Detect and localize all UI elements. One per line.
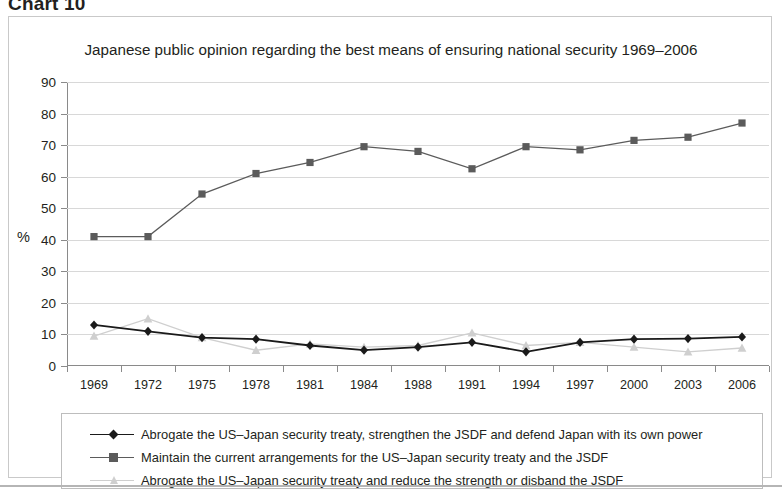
x-axis-tick-label: 1981	[296, 378, 324, 392]
diamond-marker	[109, 429, 119, 439]
x-axis-tick-label: 1975	[188, 378, 216, 392]
square-marker	[738, 119, 745, 126]
y-axis-tick-label: 20	[41, 295, 56, 310]
x-axis-tick	[67, 366, 68, 372]
y-axis-title: %	[17, 229, 30, 245]
x-axis-tick	[661, 366, 662, 372]
legend-item-3[interactable]: Abrogate the US–Japan security treaty an…	[90, 469, 623, 491]
x-axis-tick	[283, 366, 284, 372]
square-marker	[522, 143, 529, 150]
x-axis-tick	[229, 366, 230, 372]
y-axis-tick-label: 10	[41, 327, 56, 342]
diamond-marker	[90, 320, 98, 329]
legend-label: Abrogate the US–Japan security treaty, s…	[141, 427, 703, 442]
y-axis-tick-label: 40	[41, 232, 56, 247]
chart-number-label: Chart 10	[8, 0, 86, 15]
x-axis-tick	[769, 366, 770, 372]
square-marker	[468, 165, 475, 172]
y-axis-tick-label: 0	[48, 359, 56, 374]
legend-swatch	[90, 427, 134, 441]
x-axis-tick	[445, 366, 446, 372]
triangle-marker	[110, 476, 118, 484]
square-marker	[360, 143, 367, 150]
y-axis-tick-label: 60	[41, 169, 56, 184]
y-axis-tick-label: 80	[41, 106, 56, 121]
chart-title: Japanese public opinion regarding the be…	[9, 41, 773, 58]
plot-wrap: 0102030405060708090 19691972197519781981…	[67, 82, 769, 366]
legend-swatch	[90, 450, 134, 464]
square-marker	[414, 148, 421, 155]
triangle-marker	[144, 314, 153, 322]
square-marker	[576, 146, 583, 153]
diamond-marker	[684, 334, 692, 343]
x-axis-tick-label: 2000	[620, 378, 648, 392]
square-marker	[306, 159, 313, 166]
x-axis-tick	[391, 366, 392, 372]
x-axis-tick-label: 1969	[80, 378, 108, 392]
legend-label: Maintain the current arrangements for th…	[141, 450, 608, 465]
x-axis-tick	[553, 366, 554, 372]
y-axis-tick-label: 90	[41, 75, 56, 90]
x-axis-tick-label: 1991	[458, 378, 486, 392]
square-marker	[630, 137, 637, 144]
square-marker	[252, 170, 259, 177]
y-axis-tick-label: 70	[41, 138, 56, 153]
diamond-marker	[144, 327, 152, 336]
triangle-marker	[468, 328, 477, 336]
legend-item-1[interactable]: Abrogate the US–Japan security treaty, s…	[90, 423, 703, 445]
x-axis-tick-label: 1988	[404, 378, 432, 392]
square-marker	[684, 134, 691, 141]
figure-frame: Japanese public opinion regarding the be…	[8, 16, 772, 478]
x-axis-tick-label: 2006	[728, 378, 756, 392]
diamond-marker	[468, 338, 476, 347]
diamond-marker	[738, 332, 746, 341]
diamond-marker	[630, 335, 638, 344]
x-axis-tick-label: 1972	[134, 378, 162, 392]
x-axis-tick-label: 2003	[674, 378, 702, 392]
series-line	[94, 123, 742, 237]
series-layer	[67, 82, 769, 366]
x-axis-tick	[715, 366, 716, 372]
x-axis-tick-label: 1997	[566, 378, 594, 392]
diamond-marker	[252, 335, 260, 344]
x-axis-tick	[175, 366, 176, 372]
figure-bottom-rule	[0, 485, 782, 487]
x-axis-tick	[337, 366, 338, 372]
square-marker	[90, 233, 97, 240]
x-axis-tick	[121, 366, 122, 372]
y-axis-tick-label: 30	[41, 264, 56, 279]
x-axis-tick	[607, 366, 608, 372]
square-marker	[109, 453, 118, 462]
diamond-marker	[306, 341, 314, 350]
square-marker	[144, 233, 151, 240]
x-axis-tick-label: 1994	[512, 378, 540, 392]
y-axis-tick-label: 50	[41, 201, 56, 216]
legend-item-2[interactable]: Maintain the current arrangements for th…	[90, 446, 608, 468]
x-axis-tick	[499, 366, 500, 372]
square-marker	[198, 190, 205, 197]
diamond-marker	[414, 342, 422, 351]
x-axis-tick-label: 1984	[350, 378, 378, 392]
x-axis-tick-label: 1978	[242, 378, 270, 392]
legend-box: Abrogate the US–Japan security treaty, s…	[61, 413, 763, 489]
